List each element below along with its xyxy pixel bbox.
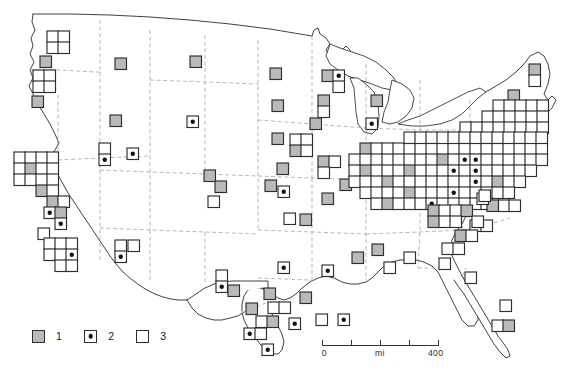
distribution-cell-class-3 — [459, 176, 471, 188]
distribution-cell-class-3 — [515, 111, 527, 123]
distribution-cell-class-3 — [415, 198, 427, 210]
scalebar-label-max: 400 — [428, 348, 444, 358]
distribution-cell-class-2 — [289, 318, 301, 330]
distribution-cell-class-3 — [47, 31, 59, 43]
distribution-cell-class-1 — [360, 143, 372, 155]
distribution-cell-class-3 — [442, 243, 454, 255]
distribution-cell-class-1 — [404, 165, 416, 177]
distribution-cell-class-1 — [290, 145, 302, 157]
distribution-cell-class-3 — [415, 176, 427, 188]
distribution-cell-class-3 — [393, 176, 405, 188]
distribution-cell-class-3 — [536, 132, 548, 144]
cell-center-dot-icon — [452, 169, 456, 173]
distribution-cell-class-3 — [404, 176, 416, 188]
distribution-cell-class-3 — [47, 42, 59, 54]
distribution-cell-class-3 — [301, 134, 313, 146]
distribution-cell-class-3 — [58, 31, 70, 43]
distribution-cell-class-2 — [115, 251, 127, 263]
legend-entry-2: 2 — [84, 330, 114, 343]
distribution-cell-class-3 — [393, 143, 405, 155]
distribution-cell-class-3 — [503, 143, 515, 155]
distribution-cell-class-3 — [459, 143, 471, 155]
distribution-cell-class-3 — [55, 238, 67, 250]
distribution-cell-class-3 — [393, 165, 405, 177]
scalebar-tick-1 — [351, 340, 352, 346]
distribution-cell-class-3 — [526, 111, 538, 123]
distribution-cell-class-2 — [244, 328, 256, 340]
distribution-cell-class-1 — [277, 163, 289, 175]
distribution-cell-class-3 — [384, 262, 396, 274]
distribution-cell-class-3 — [318, 167, 330, 179]
distribution-cell-class-3 — [481, 154, 493, 166]
distribution-cell-class-3 — [393, 187, 405, 199]
distribution-cell-class-3 — [514, 143, 526, 155]
cell-center-dot-icon — [220, 285, 224, 289]
distribution-cell-class-2 — [278, 186, 290, 198]
distribution-cell-class-2 — [55, 218, 67, 230]
distribution-cell-class-3 — [33, 70, 45, 82]
distribution-cell-class-1 — [115, 58, 127, 70]
cell-center-dot-icon — [293, 322, 297, 326]
distribution-cell-class-3 — [256, 316, 268, 328]
cell-center-dot-icon — [342, 318, 346, 322]
cell-center-dot-icon — [463, 158, 467, 162]
distribution-cell-class-3 — [58, 42, 70, 54]
legend-entry-1: 1 — [32, 330, 62, 343]
distribution-cell-class-3 — [301, 145, 313, 157]
distribution-cell-class-3 — [284, 213, 296, 225]
distribution-cell-class-3 — [349, 154, 361, 166]
distribution-cell-class-3 — [493, 100, 505, 112]
cell-center-dot-icon — [326, 269, 330, 273]
distribution-cell-class-3 — [393, 198, 405, 210]
distribution-cell-class-3 — [14, 174, 26, 186]
distribution-cell-class-2 — [366, 118, 378, 130]
distribution-cell-class-3 — [503, 187, 515, 199]
distribution-cell-class-3 — [47, 174, 59, 186]
distribution-cell-class-3 — [316, 314, 328, 326]
distribution-cell-class-3 — [503, 165, 515, 177]
distribution-cell-class-3 — [55, 260, 67, 272]
distribution-cell-class-3 — [426, 132, 438, 144]
distribution-cell-class-3 — [437, 165, 449, 177]
distribution-cell-class-3 — [382, 154, 394, 166]
distribution-cell-class-3 — [426, 165, 438, 177]
distribution-cell-class-1 — [204, 170, 216, 182]
distribution-cell-class-3 — [525, 143, 537, 155]
map-legend: 1 2 3 — [32, 322, 166, 350]
scalebar-rule — [322, 340, 438, 347]
cell-center-dot-icon — [474, 158, 478, 162]
distribution-cell-class-3 — [371, 198, 383, 210]
distribution-cell-class-3 — [36, 163, 48, 175]
distribution-cell-class-1 — [529, 64, 541, 76]
distribution-cell-class-3 — [492, 187, 504, 199]
distribution-cell-class-3 — [14, 163, 26, 175]
legend-label-2: 2 — [108, 330, 114, 342]
distribution-cell-class-3 — [482, 111, 494, 123]
distribution-cell-class-3 — [529, 75, 541, 87]
cell-center-dot-icon — [474, 180, 478, 184]
distribution-cell-class-3 — [55, 249, 67, 261]
distribution-cell-class-2 — [66, 249, 78, 261]
cell-center-dot-icon — [474, 169, 478, 173]
distribution-cell-class-3 — [382, 143, 394, 155]
distribution-cell-class-2 — [262, 344, 274, 356]
distribution-cell-class-3 — [404, 198, 416, 210]
distribution-cell-class-1 — [265, 180, 277, 192]
distribution-cell-class-3 — [470, 143, 482, 155]
distribution-cell-class-3 — [503, 132, 515, 144]
distribution-cell-class-3 — [393, 154, 405, 166]
distribution-cell-class-3 — [415, 165, 427, 177]
distribution-cell-class-1 — [437, 154, 449, 166]
distribution-cell-class-3 — [404, 143, 416, 155]
distribution-cell-class-3 — [525, 165, 537, 177]
distribution-cell-class-3 — [448, 154, 460, 166]
distribution-cell-class-3 — [44, 81, 56, 93]
distribution-cell-class-3 — [415, 143, 427, 155]
distribution-cell-class-3 — [382, 165, 394, 177]
scalebar-label-unit: mi — [375, 348, 385, 358]
distribution-cell-class-3 — [537, 111, 549, 123]
distribution-cell-class-3 — [318, 106, 330, 118]
distribution-cell-class-1 — [270, 68, 282, 80]
distribution-cell-class-1 — [300, 292, 312, 304]
distribution-cell-class-1 — [47, 196, 59, 208]
